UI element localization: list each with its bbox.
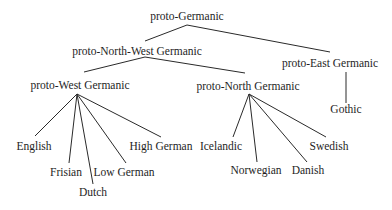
leaf-danish: Danish [292,164,325,176]
edge-png-to-ice [233,94,249,137]
edge-pwg-to-eng [35,94,77,136]
leaf-frisian: Frisian [50,166,82,178]
leaf-gothic: Gothic [330,103,361,115]
edge-pwg-to-lg [77,94,126,163]
edge-png-to-swe [249,94,326,137]
node-proto-north-germanic: proto-North Germanic [196,80,299,93]
leaf-high-german: High German [130,140,193,153]
node-proto-west-germanic: proto-West Germanic [30,79,129,92]
edge-pg-to-peg [187,25,330,52]
edge-png-to-dan [249,94,307,162]
language-family-tree: proto-Germanic proto-North-West Germanic… [0,0,392,210]
edge-png-to-nor [249,94,257,162]
edge-pnwg-to-png [145,57,245,73]
node-proto-north-west-germanic: proto-North-West Germanic [72,45,202,58]
leaf-english: English [16,140,51,153]
leaf-dutch: Dutch [79,186,107,198]
edge-pnwg-to-pwg [84,57,145,72]
node-proto-east-germanic: proto-East Germanic [282,57,378,70]
leaf-swedish: Swedish [310,140,349,152]
leaf-norwegian: Norwegian [230,164,281,177]
edge-pwg-to-fri [69,94,77,163]
tree-labels: proto-Germanic proto-North-West Germanic… [16,10,378,198]
leaf-icelandic: Icelandic [200,140,242,152]
leaf-low-german: Low German [94,166,155,178]
edge-pwg-to-hg [77,94,161,137]
edge-pg-to-pnwg [145,25,187,41]
node-proto-germanic: proto-Germanic [150,10,223,23]
